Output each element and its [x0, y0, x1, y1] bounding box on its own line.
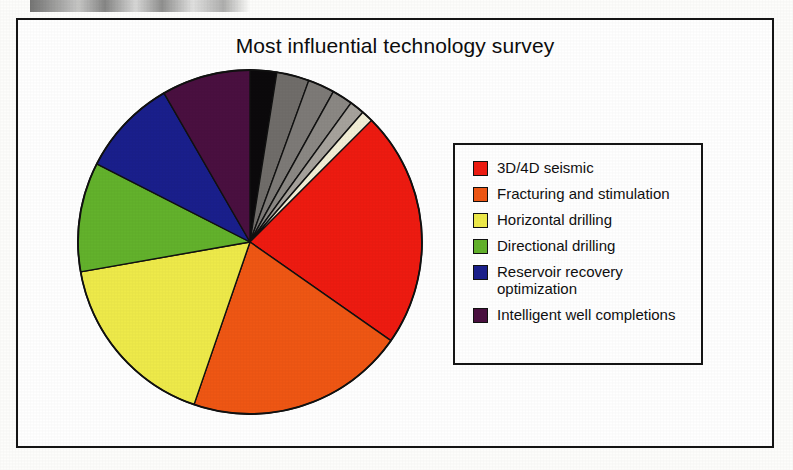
legend-item-label: Reservoir recovery optimization — [497, 263, 623, 297]
legend-swatch-icon — [473, 239, 488, 254]
scan-artifact — [30, 0, 250, 12]
pie-chart — [70, 62, 430, 422]
legend-item: Reservoir recovery optimization — [473, 263, 691, 297]
legend-item: Fracturing and stimulation — [473, 185, 691, 202]
legend-item-label: Horizontal drilling — [497, 211, 612, 228]
legend-item-label: Intelligent well completions — [497, 306, 675, 323]
legend-item: Directional drilling — [473, 237, 691, 254]
legend-item-label: Fracturing and stimulation — [497, 185, 670, 202]
legend: 3D/4D seismicFracturing and stimulationH… — [453, 143, 703, 365]
legend-item-label: 3D/4D seismic — [497, 159, 594, 176]
pie-chart-svg — [70, 62, 430, 422]
legend-item: 3D/4D seismic — [473, 159, 691, 176]
legend-swatch-icon — [473, 161, 488, 176]
legend-swatch-icon — [473, 308, 488, 323]
figure-frame: Most influential technology survey 3D/4D… — [16, 18, 774, 448]
page-title: Most influential technology survey — [18, 34, 772, 58]
legend-swatch-icon — [473, 265, 488, 280]
legend-item: Horizontal drilling — [473, 211, 691, 228]
legend-swatch-icon — [473, 187, 488, 202]
legend-item: Intelligent well completions — [473, 306, 691, 323]
legend-swatch-icon — [473, 213, 488, 228]
legend-item-label: Directional drilling — [497, 237, 615, 254]
scanned-page: Most influential technology survey 3D/4D… — [0, 0, 793, 470]
